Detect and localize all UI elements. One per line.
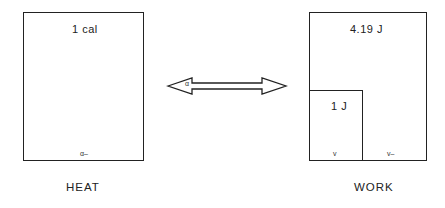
work-value-label: 4.19 J	[350, 23, 383, 35]
heat-caption: HEAT	[66, 181, 100, 193]
inner-bottom-mark: v	[333, 150, 337, 157]
work-bottom-mark: v–	[387, 150, 394, 157]
arrow-mark: α	[185, 80, 189, 87]
work-caption: WORK	[354, 181, 394, 193]
heat-bottom-mark: α–	[80, 150, 88, 157]
inner-value-label: 1 J	[331, 100, 347, 112]
heat-value-label: 1 cal	[72, 23, 98, 35]
